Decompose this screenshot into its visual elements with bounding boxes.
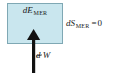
- entropy-value: 0: [97, 18, 102, 28]
- energy-symbol: E: [27, 5, 33, 15]
- entropy-equation: dSMER=0: [66, 18, 102, 32]
- thermodynamic-system-figure: dEMER dSMER=0 d W: [0, 0, 124, 73]
- energy-change-label: dEMER: [7, 5, 63, 19]
- entropy-subscript: MER: [75, 23, 89, 29]
- work-input-arrow-icon: [26, 29, 42, 73]
- energy-subscript: MER: [33, 10, 47, 16]
